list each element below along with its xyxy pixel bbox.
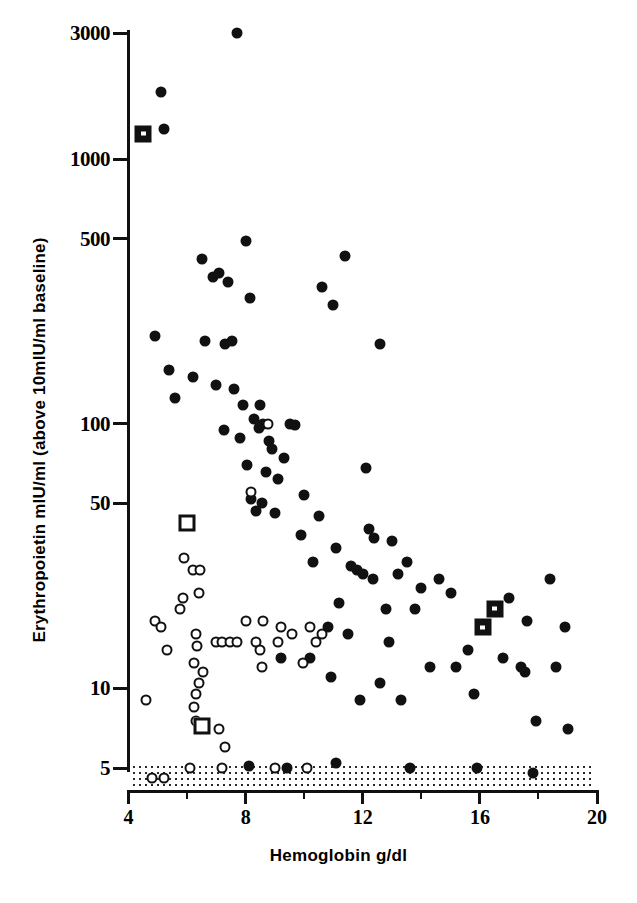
data-point-filled-circle xyxy=(223,276,234,287)
x-tick-12 xyxy=(361,790,364,804)
data-point-filled-circle xyxy=(469,689,480,700)
data-point-filled-circle xyxy=(521,615,532,626)
scatter-plot-figure: 5105010050010003000 48121620 Erythropoie… xyxy=(0,0,637,903)
x-axis-title: Hemoglobin g/dl xyxy=(0,846,637,866)
data-point-filled-circle xyxy=(410,603,421,614)
data-point-open-circle xyxy=(161,644,172,655)
data-point-filled-circle xyxy=(164,364,175,375)
data-point-filled-circle xyxy=(307,557,318,568)
data-point-filled-circle xyxy=(275,653,286,664)
data-point-filled-circle xyxy=(299,489,310,500)
data-point-filled-circle xyxy=(375,677,386,688)
data-point-filled-circle xyxy=(334,598,345,609)
data-point-filled-circle xyxy=(199,336,210,347)
x-tick-16 xyxy=(478,790,481,804)
data-point-filled-circle xyxy=(266,444,277,455)
x-minor-tick-6 xyxy=(186,790,188,799)
data-point-filled-circle xyxy=(196,253,207,264)
x-tick-label-16: 16 xyxy=(470,806,490,829)
data-point-filled-circle xyxy=(551,662,562,673)
x-axis-title-text: Hemoglobin g/dl xyxy=(230,846,408,865)
y-tick-50 xyxy=(113,502,128,505)
data-point-filled-circle xyxy=(375,339,386,350)
y-tick-1000 xyxy=(113,158,128,161)
data-point-filled-circle xyxy=(234,433,245,444)
data-point-filled-circle xyxy=(331,542,342,553)
data-point-open-circle xyxy=(275,622,286,633)
data-point-filled-circle xyxy=(527,767,538,778)
y-tick-label-10: 10 xyxy=(90,676,110,701)
data-point-filled-circle xyxy=(387,536,398,547)
y-tick-label-500: 500 xyxy=(80,226,110,251)
data-point-filled-circle xyxy=(463,644,474,655)
y-tick-3000 xyxy=(113,32,128,35)
data-point-filled-circle xyxy=(360,463,371,474)
data-point-filled-circle xyxy=(250,505,261,516)
data-point-filled-circle xyxy=(278,453,289,464)
y-axis-title: Erythropoietin mIU/ml (above 10mIU/ml ba… xyxy=(30,140,50,740)
data-point-filled-circle xyxy=(498,653,509,664)
data-point-filled-circle xyxy=(384,636,395,647)
data-point-open-circle xyxy=(214,724,225,735)
data-point-open-circle xyxy=(258,615,269,626)
data-point-filled-circle xyxy=(401,557,412,568)
data-point-open-circle xyxy=(190,689,201,700)
data-point-filled-circle xyxy=(559,622,570,633)
data-point-filled-circle xyxy=(272,473,283,484)
data-point-filled-circle xyxy=(243,760,254,771)
data-point-filled-circle xyxy=(369,533,380,544)
data-point-filled-circle xyxy=(340,251,351,262)
data-point-filled-circle xyxy=(261,466,272,477)
data-point-open-circle xyxy=(272,636,283,647)
data-point-filled-circle xyxy=(155,86,166,97)
data-point-filled-circle xyxy=(231,28,242,39)
data-point-open-square xyxy=(179,515,196,532)
y-tick-label-3000: 3000 xyxy=(70,21,110,46)
data-point-open-circle xyxy=(189,657,200,668)
data-point-filled-circle xyxy=(445,587,456,598)
y-tick-500 xyxy=(113,237,128,240)
x-tick-4 xyxy=(127,790,130,804)
data-point-open-circle xyxy=(174,603,185,614)
y-tick-label-5: 5 xyxy=(100,756,110,781)
data-point-open-circle xyxy=(193,587,204,598)
data-point-filled-square xyxy=(135,125,152,142)
data-point-filled-circle xyxy=(187,372,198,383)
data-point-filled-circle xyxy=(530,716,541,727)
data-point-filled-circle xyxy=(367,573,378,584)
data-point-open-circle xyxy=(297,657,308,668)
data-point-open-circle xyxy=(158,772,169,783)
y-tick-5 xyxy=(113,767,128,770)
x-tick-20 xyxy=(596,790,599,804)
data-point-open-circle xyxy=(305,622,316,633)
x-tick-label-20: 20 xyxy=(587,806,607,829)
data-point-open-circle xyxy=(302,763,313,774)
data-point-open-circle xyxy=(193,677,204,688)
data-point-filled-circle xyxy=(404,763,415,774)
y-tick-100 xyxy=(113,422,128,425)
data-point-open-circle xyxy=(255,644,266,655)
data-point-open-circle xyxy=(190,629,201,640)
y-tick-label-100: 100 xyxy=(80,411,110,436)
data-point-filled-circle xyxy=(316,281,327,292)
data-point-filled-circle xyxy=(504,592,515,603)
data-point-filled-circle xyxy=(562,724,573,735)
data-point-open-circle xyxy=(269,763,280,774)
y-tick-label-1000: 1000 xyxy=(70,147,110,172)
data-point-open-circle xyxy=(189,702,200,713)
data-point-open-circle xyxy=(146,772,157,783)
data-point-filled-circle xyxy=(425,662,436,673)
x-tick-label-8: 8 xyxy=(241,806,251,829)
data-point-filled-circle xyxy=(331,758,342,769)
data-point-filled-circle xyxy=(296,529,307,540)
y-tick-label-50: 50 xyxy=(90,491,110,516)
data-point-open-circle xyxy=(195,565,206,576)
data-point-filled-circle xyxy=(211,380,222,391)
data-point-filled-circle xyxy=(228,384,239,395)
data-point-filled-circle xyxy=(218,424,229,435)
data-point-open-circle xyxy=(217,763,228,774)
data-point-filled-circle xyxy=(281,763,292,774)
data-point-filled-circle xyxy=(245,292,256,303)
data-point-filled-circle xyxy=(158,124,169,135)
data-point-filled-circle xyxy=(325,672,336,683)
